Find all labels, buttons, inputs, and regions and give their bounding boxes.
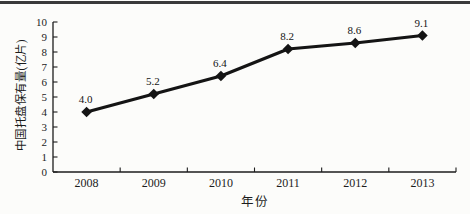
y-tick-label: 0: [42, 166, 48, 178]
data-point-2012: [350, 38, 361, 49]
series-line: [87, 36, 423, 113]
data-label-2009: 5.2: [146, 75, 160, 87]
y-tick-label: 10: [36, 16, 48, 28]
data-point-2010: [216, 71, 227, 82]
y-tick-label: 4: [42, 106, 48, 118]
y-tick-label: 8: [42, 46, 48, 58]
data-label-2012: 8.6: [347, 24, 361, 36]
y-tick-label: 6: [42, 76, 48, 88]
x-tick-label-2009: 2009: [142, 176, 166, 190]
data-label-2013: 9.1: [415, 17, 429, 29]
data-point-2008: [81, 107, 92, 118]
y-tick-label: 5: [42, 91, 48, 103]
x-tick-label-2012: 2012: [343, 176, 367, 190]
y-tick-label: 2: [42, 136, 48, 148]
x-tick-label-2011: 2011: [276, 176, 300, 190]
y-axis-title: 中国托盘保有量(亿片): [14, 15, 28, 175]
y-tick-label: 7: [42, 61, 48, 73]
pallet-line-chart: 0123456789102008200920102011201220134.05…: [0, 0, 470, 214]
data-point-2009: [148, 89, 159, 100]
data-label-2010: 6.4: [213, 57, 227, 69]
x-tick-label-2008: 2008: [75, 176, 99, 190]
x-axis-title: 年份: [53, 191, 456, 210]
x-tick-label-2010: 2010: [209, 176, 233, 190]
data-label-2008: 4.0: [79, 93, 93, 105]
chart-svg: 0123456789102008200920102011201220134.05…: [0, 0, 470, 214]
x-tick-label-2013: 2013: [410, 176, 434, 190]
y-tick-label: 1: [42, 151, 48, 163]
data-point-2013: [417, 30, 428, 41]
data-point-2011: [283, 44, 294, 55]
data-label-2011: 8.2: [280, 30, 294, 42]
y-tick-label: 3: [42, 121, 48, 133]
y-tick-label: 9: [42, 31, 48, 43]
